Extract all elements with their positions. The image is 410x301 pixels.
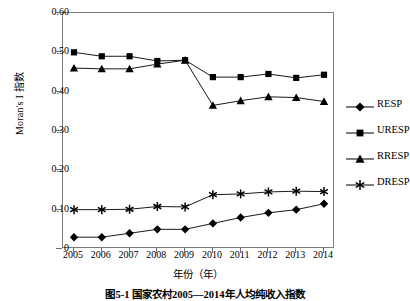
x-axis-title: 年份（年）: [62, 266, 334, 281]
series-line-rresp: [74, 60, 324, 105]
data-point-square: [126, 53, 132, 59]
x-tick-mark: [295, 248, 296, 253]
x-tick-mark: [323, 248, 324, 253]
data-point-diamond: [236, 213, 244, 221]
data-point-square: [238, 74, 244, 80]
legend-item-rresp[interactable]: RRESP: [345, 148, 410, 174]
data-point-diamond: [125, 229, 133, 237]
data-point-diamond: [320, 200, 328, 208]
data-point-square: [357, 130, 364, 137]
x-tick-mark: [184, 248, 185, 253]
data-point-diamond: [181, 225, 189, 233]
x-tick-mark: [129, 248, 130, 253]
data-point-square: [210, 74, 216, 80]
x-tick-mark: [156, 248, 157, 253]
y-tick-mark: [56, 209, 62, 210]
x-tick-mark: [212, 248, 213, 253]
data-point-diamond: [264, 209, 272, 217]
legend-swatch-diamond-icon: [345, 100, 375, 114]
x-tick-mark: [73, 248, 74, 253]
data-point-diamond: [153, 225, 161, 233]
y-tick-mark: [56, 91, 62, 92]
legend-swatch-asterisk-icon: [345, 178, 375, 192]
legend-item-dresp[interactable]: DRESP: [345, 174, 410, 200]
legend-label: URESP: [377, 124, 410, 135]
series-line-resp: [74, 204, 324, 237]
figure-caption: 图5-1 国家农村2005—2014年人均纯收入指数: [0, 286, 410, 301]
y-tick-mark: [56, 12, 62, 13]
series-line-dresp: [74, 191, 324, 209]
legend-item-uresp[interactable]: URESP: [345, 122, 410, 148]
legend-label: RRESP: [377, 150, 409, 161]
data-point-diamond: [292, 205, 300, 213]
y-tick-mark: [56, 51, 62, 52]
legend-label: DRESP: [377, 176, 410, 187]
data-point-diamond: [98, 233, 106, 241]
legend-swatch-square-icon: [345, 126, 375, 140]
data-point-square: [293, 75, 299, 81]
y-tick-mark: [56, 248, 62, 249]
data-point-triangle: [264, 93, 272, 101]
x-tick-mark: [267, 248, 268, 253]
plot-area: [62, 12, 334, 248]
series-line-uresp: [74, 52, 324, 78]
x-tick-mark: [101, 248, 102, 253]
legend-label: RESP: [377, 98, 402, 109]
data-point-diamond: [355, 102, 364, 111]
y-tick-mark: [56, 130, 62, 131]
data-point-square: [99, 53, 105, 59]
y-tick-mark: [56, 169, 62, 170]
data-point-square: [71, 49, 77, 55]
series-canvas: [63, 13, 335, 249]
data-point-square: [265, 71, 271, 77]
data-point-diamond: [209, 219, 217, 227]
x-tick-mark: [240, 248, 241, 253]
legend: RESPURESPRRESPDRESP: [345, 96, 410, 200]
data-point-square: [321, 72, 327, 78]
data-point-diamond: [70, 233, 78, 241]
data-point-triangle: [70, 64, 78, 72]
legend-swatch-triangle-icon: [345, 152, 375, 166]
y-axis-title: Moran's I 指数: [11, 49, 26, 159]
legend-item-resp[interactable]: RESP: [345, 96, 410, 122]
